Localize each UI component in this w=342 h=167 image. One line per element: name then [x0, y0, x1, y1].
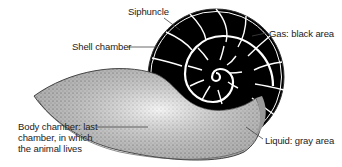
label-body-chamber-1: Body chamber: last: [18, 121, 98, 132]
label-body-chamber-3: the animal lives: [18, 143, 82, 154]
label-body-chamber-2: chamber, in which: [18, 132, 92, 143]
label-gas: Gas: black area: [269, 28, 334, 39]
label-shell-chamber: Shell chamber: [72, 41, 131, 52]
label-liquid: Liquid: gray area: [265, 135, 334, 146]
label-siphuncle: Siphuncle: [128, 6, 169, 17]
